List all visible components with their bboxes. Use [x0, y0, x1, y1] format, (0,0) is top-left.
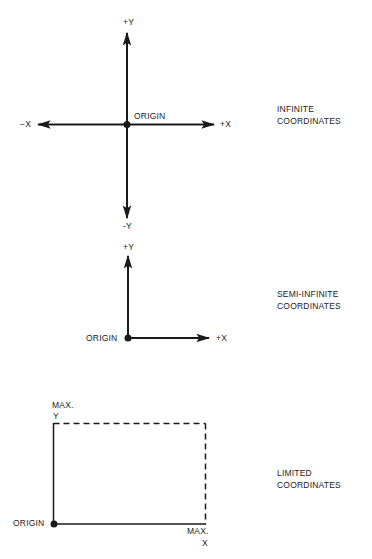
- pos-x-label: +X: [220, 119, 231, 129]
- origin-label: ORIGIN: [13, 518, 44, 528]
- neg-y-label: -Y: [123, 221, 132, 231]
- caption-line: COORDINATES: [277, 479, 341, 491]
- origin-dot: [124, 121, 131, 128]
- origin-dot: [125, 335, 132, 342]
- coordinate-systems-figure: +Y -Y −X +X ORIGIN INFINITE COORDINATES …: [0, 0, 372, 559]
- max-y-label: Y: [53, 411, 59, 421]
- caption-line: COORDINATES: [277, 115, 341, 127]
- neg-x-label: −X: [20, 119, 31, 129]
- caption-line: SEMI-INFINITE: [277, 288, 341, 300]
- caption-line: INFINITE: [277, 103, 341, 115]
- max-x-label: MAX.: [187, 526, 209, 536]
- semi-infinite-axes: [125, 256, 210, 342]
- semi-infinite-caption: SEMI-INFINITE COORDINATES: [277, 288, 341, 312]
- infinite-axes: [38, 33, 214, 218]
- pos-y-label: +Y: [123, 17, 134, 27]
- limited-axes: [51, 423, 207, 528]
- caption-line: LIMITED: [277, 467, 341, 479]
- pos-x-label: +X: [216, 333, 227, 343]
- origin-dot: [51, 521, 58, 528]
- origin-label: ORIGIN: [134, 111, 165, 121]
- max-y-label: MAX.: [52, 400, 74, 410]
- caption-line: COORDINATES: [277, 300, 341, 312]
- pos-y-label: +Y: [123, 242, 134, 252]
- infinite-caption: INFINITE COORDINATES: [277, 103, 341, 127]
- limited-caption: LIMITED COORDINATES: [277, 467, 341, 491]
- max-x-label: X: [202, 538, 208, 548]
- origin-label: ORIGIN: [86, 333, 117, 343]
